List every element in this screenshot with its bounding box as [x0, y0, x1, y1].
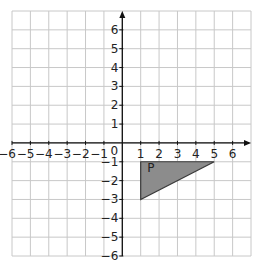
y-tick-label: 1 — [111, 117, 119, 131]
y-tick-label: 3 — [111, 79, 119, 93]
x-tick-label: 1 — [137, 147, 145, 161]
grid-lines — [12, 11, 251, 256]
y-tick-label: −6 — [101, 249, 119, 263]
origin-label: 0 — [110, 144, 118, 158]
x-tick-label: 3 — [174, 147, 182, 161]
x-tick-label: 5 — [210, 147, 218, 161]
y-tick-label: 6 — [111, 23, 119, 37]
axes — [12, 11, 251, 256]
y-tick-label: −2 — [101, 174, 119, 188]
x-tick-label: −4 — [35, 147, 53, 161]
y-tick-label: −3 — [101, 192, 119, 206]
x-tick-label: −2 — [72, 147, 90, 161]
x-axis-arrow-icon — [244, 140, 251, 146]
x-tick-label: −3 — [53, 147, 71, 161]
y-tick-label: −5 — [101, 230, 119, 244]
y-tick-label: 4 — [111, 61, 119, 75]
x-tick-label: −5 — [17, 147, 35, 161]
y-axis-arrow-icon — [119, 11, 125, 18]
x-tick-label: −6 — [0, 147, 16, 161]
y-tick-label: 5 — [111, 42, 119, 56]
x-tick-label: 4 — [192, 147, 200, 161]
x-tick-label: 2 — [155, 147, 163, 161]
coordinate-grid: P −6−5−4−3−2−1123456654321−1−2−3−4−5−60 — [0, 0, 257, 267]
y-tick-label: −4 — [101, 211, 119, 225]
x-tick-label: 6 — [229, 147, 237, 161]
shape-label: P — [147, 161, 154, 175]
y-tick-label: 2 — [111, 98, 119, 112]
